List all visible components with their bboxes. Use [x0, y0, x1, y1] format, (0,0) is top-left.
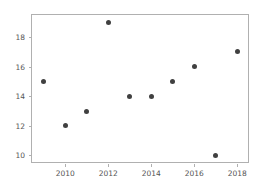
- y-tick-label: 18: [15, 33, 25, 42]
- y-tick-mark: [29, 126, 32, 127]
- y-tick-mark: [29, 96, 32, 97]
- x-tick-mark: [237, 164, 238, 167]
- y-tick-label: 10: [15, 151, 25, 160]
- x-tick-mark: [151, 164, 152, 167]
- x-tick-mark: [65, 164, 66, 167]
- x-tick-label: 2014: [142, 169, 161, 178]
- data-points-layer: [32, 15, 248, 162]
- data-point: [192, 64, 197, 69]
- x-tick-mark: [108, 164, 109, 167]
- data-point: [84, 109, 89, 114]
- y-tick-label: 16: [15, 62, 25, 71]
- data-point: [106, 20, 111, 25]
- y-tick-mark: [29, 67, 32, 68]
- data-point: [170, 79, 175, 84]
- data-point: [41, 79, 46, 84]
- x-tick-label: 2012: [99, 169, 118, 178]
- y-tick-mark: [29, 37, 32, 38]
- data-point: [127, 94, 132, 99]
- y-tick-label: 14: [15, 92, 25, 101]
- data-point: [149, 94, 154, 99]
- x-tick-label: 2010: [56, 169, 75, 178]
- y-tick-mark: [29, 155, 32, 156]
- x-tick-label: 2018: [228, 169, 247, 178]
- y-tick-label: 12: [15, 121, 25, 130]
- data-point: [63, 123, 68, 128]
- x-tick-label: 2016: [185, 169, 204, 178]
- x-tick-mark: [194, 164, 195, 167]
- data-point: [213, 153, 218, 158]
- data-point: [235, 49, 240, 54]
- scatter-chart-figure: 201020122014201620181012141618: [0, 0, 264, 188]
- plot-area: 201020122014201620181012141618: [31, 14, 249, 163]
